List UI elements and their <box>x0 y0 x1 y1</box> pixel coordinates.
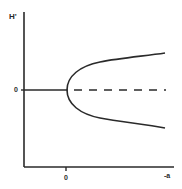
x-axis-label: -a <box>164 172 170 179</box>
y-axis-zero-label: 0 <box>14 86 18 93</box>
lower-parabolic-branch <box>67 90 165 128</box>
bifurcation-diagram-canvas <box>0 0 182 189</box>
upper-parabolic-branch <box>67 53 165 90</box>
y-axis-label: H' <box>9 13 17 21</box>
x-axis-zero-label: 0 <box>64 174 68 181</box>
